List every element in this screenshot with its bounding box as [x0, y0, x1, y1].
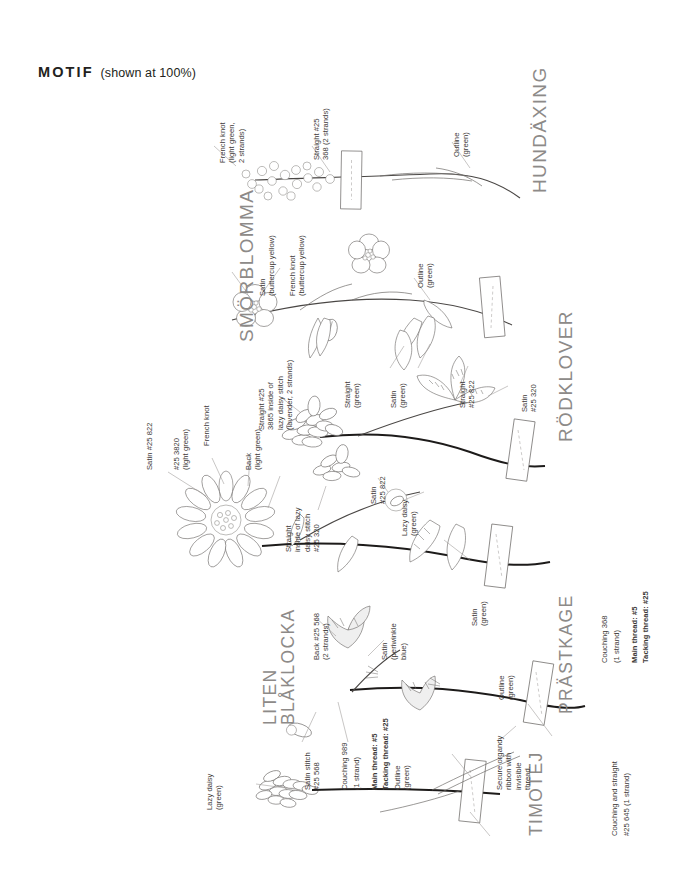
label-prastkage-satin-822: Satin #25 822: [145, 422, 154, 470]
label-smorblomma-french-knot: French knot (buttercup yellow): [288, 235, 307, 296]
hundaxing-artwork: [214, 142, 520, 209]
section-title-rodklover: RÖDKLOVER: [556, 310, 575, 442]
label-timotej-secure-ribbon: Secure organdy ribbon with invisible thr…: [495, 736, 532, 790]
note-prastkage-couching: Couching 368: [600, 616, 609, 663]
section-title-smorblomma: SMÖRBLOMMA: [237, 189, 256, 342]
label-hundaxing-straight: Straight #25 368 (2 strands): [312, 108, 331, 160]
motif-illustration: [0, 0, 687, 869]
note-prastkage-tacking-thread: Tacking thread: #25: [641, 591, 650, 663]
label-rodklover-straight-green: Straight (green): [343, 381, 362, 408]
label-prastkage-back: Back (light green): [244, 429, 263, 470]
note-blaklocka-strand: (1 strand): [352, 757, 361, 790]
section-title-prastkage: PRÄSTKAGE: [558, 594, 576, 714]
note-blaklocka-tacking-thread: Tacking thread: #25: [381, 718, 390, 790]
label-prastkage-satin-green: Satin (green): [470, 601, 489, 626]
note-timotej-couching-straight: Couching and straight: [610, 761, 619, 836]
page-header: MOTIF (shown at 100%): [38, 64, 196, 80]
prastkage-artwork: [168, 444, 550, 589]
label-rodklover-straight-lazy-daisy: Straight #25 3865 inside of lazy daisy s…: [257, 360, 294, 430]
label-smorblomma-outline: Outline (green): [416, 263, 435, 288]
section-title-hundaxing: HUNDÄXING: [530, 66, 549, 193]
page-title-scale-note: (shown at 100%): [101, 66, 196, 80]
label-prastkage-french-knot: French knot: [202, 405, 211, 446]
label-prastkage-3820: #25 3820 (light green): [172, 429, 191, 470]
label-rodklover-satin-green: Satin (green): [389, 383, 408, 408]
label-prastkage-lazy-daisy: Lazy daisy (green): [400, 500, 419, 536]
label-smorblomma-satin: Satin (buttercup yellow): [258, 235, 277, 296]
label-prastkage-satin-822b: Satin #25 822: [369, 476, 388, 504]
page-title: MOTIF: [38, 64, 94, 80]
label-blaklocka-outline-b: Outline (green): [497, 675, 516, 700]
label-rodklover-straight-822: Straight #25 822: [458, 380, 477, 408]
label-timotej-lazy-daisy: Lazy daisy (green): [205, 774, 224, 810]
note-blaklocka-couching: Couching 989: [340, 743, 349, 790]
label-rodklover-satin-320: Satin #25 320: [520, 384, 539, 412]
note-prastkage-strand: (1 strand): [612, 630, 621, 663]
label-blaklocka-satin-periwinkle: Satin (periwinkle blue): [380, 623, 408, 660]
label-hundaxing-french-knot: French knot (light green, 2 strands): [218, 122, 246, 163]
note-timotej-645: #25 645 (1 strand): [622, 773, 631, 836]
label-hundaxing-outline: Outline (green): [452, 132, 471, 157]
section-title-liten-blaklocka: LITEN BLÅKLOCKA: [262, 608, 297, 725]
note-prastkage-main-thread: Main thread: #5: [630, 607, 639, 663]
motif-sheet: MOTIF (shown at 100%): [0, 0, 687, 869]
label-blaklocka-back-568: Back #25 568 (2 strands): [312, 613, 331, 660]
label-prastkage-straight-inside-lazy-daisy: Straight inside of lazy daisy stitch #25…: [284, 507, 321, 552]
label-blaklocka-outline-a: Outline (green): [393, 765, 412, 790]
rodklover-artwork: [281, 316, 545, 481]
note-blaklocka-main-thread: Main thread: #5: [370, 734, 379, 790]
label-blaklocka-satin-stitch: Satin stitch #25 568: [303, 752, 322, 790]
